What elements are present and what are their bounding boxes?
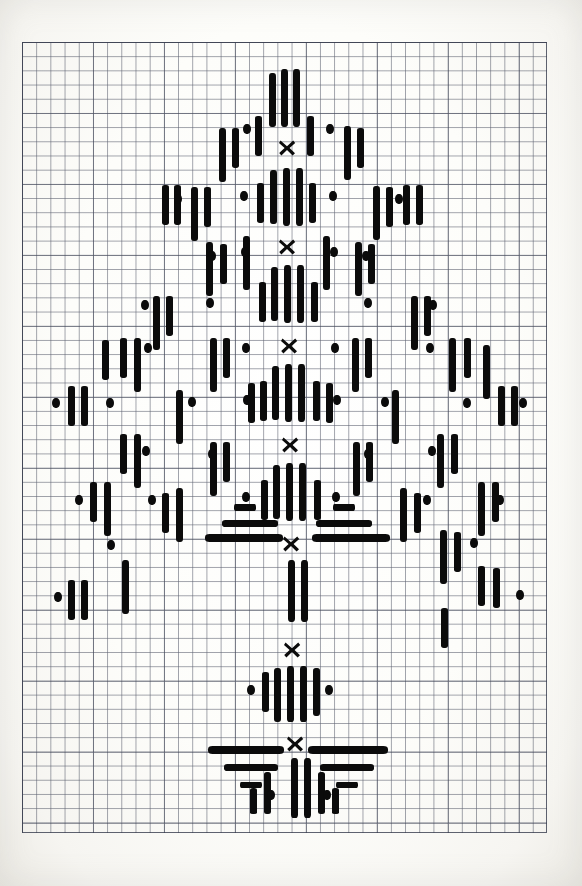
vertical-stitch-mark xyxy=(204,187,211,227)
dot-stitch-mark xyxy=(240,191,248,202)
vertical-stitch-mark xyxy=(250,788,257,814)
vertical-stitch-mark xyxy=(134,434,141,488)
vertical-stitch-mark xyxy=(102,340,109,380)
vertical-stitch-mark xyxy=(261,480,268,520)
dot-stitch-mark xyxy=(52,398,60,409)
dot-stitch-mark xyxy=(174,194,182,205)
vertical-stitch-mark xyxy=(400,488,407,542)
vertical-stitch-mark xyxy=(270,170,277,224)
vertical-stitch-mark xyxy=(210,338,217,392)
dot-stitch-mark xyxy=(516,590,524,601)
vertical-stitch-mark xyxy=(353,442,360,496)
vertical-stitch-mark xyxy=(271,267,278,321)
dot-stitch-mark xyxy=(428,446,436,457)
dot-stitch-mark xyxy=(364,449,372,460)
horizontal-stitch-mark xyxy=(336,782,358,788)
vertical-stitch-mark xyxy=(449,338,456,392)
dot-stitch-mark xyxy=(242,492,250,503)
vertical-stitch-mark xyxy=(304,758,311,818)
vertical-stitch-mark xyxy=(243,236,250,290)
dot-stitch-mark xyxy=(243,124,251,135)
dot-stitch-mark xyxy=(208,251,216,262)
vertical-stitch-mark xyxy=(81,386,88,426)
vertical-stitch-mark xyxy=(286,463,293,521)
cross-stitch-marker-icon xyxy=(284,733,306,755)
dot-stitch-mark xyxy=(364,298,372,309)
vertical-stitch-mark xyxy=(68,580,75,620)
dot-stitch-mark xyxy=(381,397,389,408)
vertical-stitch-mark xyxy=(272,366,279,420)
vertical-stitch-mark xyxy=(314,480,321,520)
dot-stitch-mark xyxy=(247,685,255,696)
vertical-stitch-mark xyxy=(176,390,183,444)
dot-stitch-mark xyxy=(323,790,331,801)
vertical-stitch-mark xyxy=(414,493,421,533)
vertical-stitch-mark xyxy=(162,185,169,225)
horizontal-stitch-mark xyxy=(320,764,374,771)
vertical-stitch-mark xyxy=(344,126,351,180)
vertical-stitch-mark xyxy=(296,168,303,226)
vertical-stitch-mark xyxy=(288,560,295,622)
dot-stitch-mark xyxy=(426,343,434,354)
dot-stitch-mark xyxy=(332,492,340,503)
vertical-stitch-mark xyxy=(511,386,518,426)
vertical-stitch-mark xyxy=(291,758,298,818)
vertical-stitch-mark xyxy=(300,666,307,722)
vertical-stitch-mark xyxy=(166,296,173,336)
dot-stitch-mark xyxy=(423,495,431,506)
vertical-stitch-mark xyxy=(120,338,127,378)
vertical-stitch-mark xyxy=(368,244,375,284)
dot-stitch-mark xyxy=(326,124,334,135)
horizontal-stitch-mark xyxy=(205,534,283,542)
vertical-stitch-mark xyxy=(366,442,373,482)
vertical-stitch-mark xyxy=(357,128,364,168)
vertical-stitch-mark xyxy=(326,383,333,423)
vertical-stitch-mark xyxy=(309,183,316,223)
dot-stitch-mark xyxy=(242,343,250,354)
dot-stitch-mark xyxy=(333,395,341,406)
horizontal-stitch-mark xyxy=(333,504,355,511)
dot-stitch-mark xyxy=(243,395,251,406)
dot-stitch-mark xyxy=(208,449,216,460)
vertical-stitch-mark xyxy=(219,128,226,182)
vertical-stitch-mark xyxy=(478,566,485,606)
dot-stitch-mark xyxy=(267,790,275,801)
horizontal-stitch-mark xyxy=(312,534,390,542)
vertical-stitch-mark xyxy=(493,568,500,608)
vertical-stitch-mark xyxy=(373,186,380,240)
vertical-stitch-mark xyxy=(386,187,393,227)
vertical-stitch-mark xyxy=(313,381,320,421)
dot-stitch-mark xyxy=(330,247,338,258)
vertical-stitch-mark xyxy=(90,482,97,522)
dot-stitch-mark xyxy=(325,685,333,696)
vertical-stitch-mark xyxy=(283,168,290,226)
vertical-stitch-mark xyxy=(392,390,399,444)
dot-stitch-mark xyxy=(519,398,527,409)
dot-stitch-mark xyxy=(429,300,437,311)
vertical-stitch-mark xyxy=(352,338,359,392)
chart-page xyxy=(0,0,582,886)
vertical-stitch-mark xyxy=(191,187,198,241)
vertical-stitch-mark xyxy=(284,265,291,323)
cross-stitch-marker-icon xyxy=(278,335,300,357)
dot-stitch-mark xyxy=(206,298,214,309)
dot-stitch-mark xyxy=(75,495,83,506)
vertical-stitch-mark xyxy=(134,338,141,392)
vertical-stitch-mark xyxy=(259,282,266,322)
vertical-stitch-mark xyxy=(298,364,305,422)
vertical-stitch-mark xyxy=(285,364,292,422)
vertical-stitch-mark xyxy=(81,580,88,620)
vertical-stitch-mark xyxy=(313,668,320,716)
horizontal-stitch-mark xyxy=(316,520,372,527)
vertical-stitch-mark xyxy=(416,185,423,225)
vertical-stitch-mark xyxy=(332,788,339,814)
vertical-stitch-mark xyxy=(287,666,294,722)
dot-stitch-mark xyxy=(395,194,403,205)
vertical-stitch-mark xyxy=(220,244,227,284)
vertical-stitch-mark xyxy=(273,465,280,519)
vertical-stitch-mark xyxy=(232,128,239,168)
vertical-stitch-mark xyxy=(311,282,318,322)
dot-stitch-mark xyxy=(496,495,504,506)
vertical-stitch-mark xyxy=(174,185,181,225)
vertical-stitch-mark xyxy=(464,338,471,378)
